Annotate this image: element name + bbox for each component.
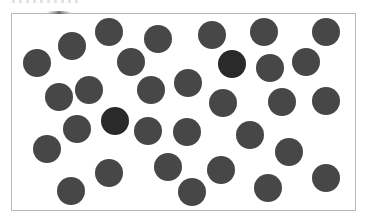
dot bbox=[268, 88, 296, 116]
dot-field bbox=[0, 0, 367, 224]
dot bbox=[275, 138, 303, 166]
dot bbox=[292, 48, 320, 76]
highlighted-dot bbox=[218, 50, 246, 78]
dot bbox=[209, 89, 237, 117]
dot bbox=[45, 83, 73, 111]
dot bbox=[198, 21, 226, 49]
dot bbox=[154, 153, 182, 181]
dot bbox=[254, 174, 282, 202]
dot bbox=[33, 135, 61, 163]
dot bbox=[207, 156, 235, 184]
highlighted-dot bbox=[101, 107, 129, 135]
dot bbox=[95, 159, 123, 187]
dot bbox=[95, 18, 123, 46]
dot bbox=[312, 164, 340, 192]
dot bbox=[236, 121, 264, 149]
dot bbox=[137, 76, 165, 104]
dot bbox=[75, 76, 103, 104]
dot bbox=[23, 49, 51, 77]
dot bbox=[178, 178, 206, 206]
dot bbox=[134, 117, 162, 145]
dot bbox=[173, 118, 201, 146]
dot bbox=[256, 54, 284, 82]
dot bbox=[174, 69, 202, 97]
dot bbox=[312, 87, 340, 115]
dot bbox=[63, 115, 91, 143]
dot bbox=[117, 48, 145, 76]
dot bbox=[312, 18, 340, 46]
dot bbox=[250, 18, 278, 46]
dot bbox=[144, 25, 172, 53]
dot bbox=[58, 32, 86, 60]
dot bbox=[57, 177, 85, 205]
